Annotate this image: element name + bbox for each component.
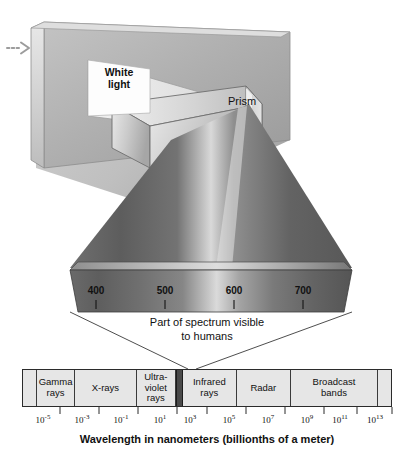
axis-label-10e-5: 10-5 [26,415,60,425]
axis-label-10e-3: 10-3 [65,415,99,425]
axis-label-10e11: 1011 [323,415,357,425]
axis-label-10e1: 101 [143,415,177,425]
axis-label-10e-1: 10-1 [104,415,138,425]
axis-label-10e5: 105 [212,415,246,425]
axis-label-10e13: 1013 [358,415,392,425]
axis-label-10e7: 107 [251,415,285,425]
axis-label-10e3: 103 [173,415,207,425]
dashed-arrow-right-icon [6,40,32,56]
axis-caption: Wavelength in nanometers (billionths of … [0,433,414,445]
axis-tick-marks [0,0,414,464]
spectrum-figure: 400 500 600 700 White light Prism Part o… [0,0,414,464]
axis-label-10e9: 109 [290,415,324,425]
